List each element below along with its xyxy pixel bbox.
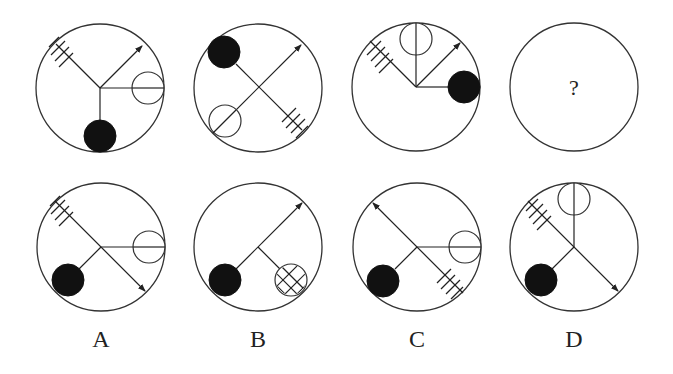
option-a-figure[interactable] (37, 183, 165, 311)
option-a-label[interactable]: A (92, 326, 109, 353)
question-panel-3 (352, 23, 480, 151)
hatch-marks-icon (50, 196, 73, 226)
filled-circle-icon (208, 36, 240, 68)
filled-circle-icon (52, 264, 84, 296)
option-c-figure[interactable] (353, 183, 481, 311)
option-c-label[interactable]: C (409, 326, 425, 353)
filled-circle-icon (367, 265, 399, 297)
hatch-marks-icon (49, 37, 73, 67)
option-b-label[interactable]: B (250, 326, 266, 353)
option-b-figure[interactable] (194, 183, 322, 311)
hatched-circle-icon (271, 264, 311, 300)
filled-circle-icon (209, 264, 241, 296)
hatch-marks-icon (367, 41, 393, 73)
puzzle-figure (0, 0, 673, 374)
filled-circle-icon (525, 264, 557, 296)
filled-circle-icon (448, 71, 480, 103)
arrow-icon (236, 203, 302, 269)
filled-circle-icon (84, 120, 116, 152)
option-d-label[interactable]: D (565, 326, 582, 353)
question-panel-1 (36, 24, 164, 152)
option-d-figure[interactable] (510, 183, 638, 311)
hatch-marks-icon (526, 199, 551, 230)
question-mark: ? (569, 75, 579, 101)
question-panel-2 (194, 24, 322, 152)
